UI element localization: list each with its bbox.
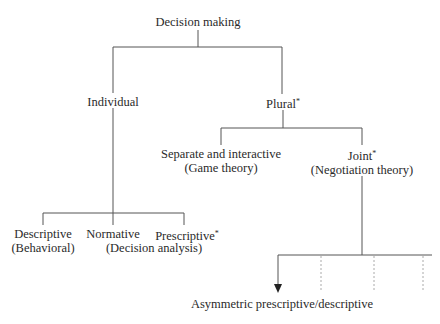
- node-sublabel: (Behavioral): [11, 241, 74, 255]
- node-separate-interactive: Separate and interactive(Game theory): [161, 147, 281, 175]
- node-individual: Individual: [87, 95, 138, 109]
- node-label: Decision making: [155, 15, 240, 29]
- node-joint: Joint*(Negotiation theory): [311, 147, 413, 177]
- asterisk-marker: *: [372, 149, 376, 158]
- node-label: Normative: [86, 227, 139, 241]
- node-label: Separate and interactive: [161, 147, 281, 161]
- node-descriptive: Descriptive(Behavioral): [11, 227, 74, 255]
- node-sublabel: (Decision analysis): [106, 241, 202, 255]
- node-sublabel: (Negotiation theory): [311, 163, 413, 177]
- node-label: Descriptive: [11, 227, 74, 241]
- node-label: Plural: [266, 97, 296, 111]
- node-label: Joint: [348, 149, 372, 163]
- node-plural: Plural*: [266, 95, 300, 111]
- decision-analysis-subtitle: (Decision analysis): [106, 241, 202, 255]
- node-label: Individual: [87, 95, 138, 109]
- node-label: Asymmetric prescriptive/descriptive: [191, 297, 373, 311]
- asterisk-marker: *: [296, 97, 300, 106]
- node-decision-making: Decision making: [155, 15, 240, 29]
- node-sublabel: (Game theory): [161, 161, 281, 175]
- asterisk-marker: *: [215, 229, 219, 238]
- node-normative: Normative: [86, 227, 139, 241]
- node-asymmetric: Asymmetric prescriptive/descriptive: [191, 297, 373, 311]
